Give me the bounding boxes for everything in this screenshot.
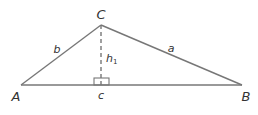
side-label-b: b	[54, 43, 61, 56]
altitude-label-main: h	[106, 52, 113, 65]
triangle-diagram: C A B b a c h1	[0, 0, 258, 115]
altitude-label: h1	[106, 52, 117, 66]
vertex-label-c: C	[96, 7, 106, 22]
side-b-line	[21, 25, 101, 85]
side-a-line	[101, 25, 242, 85]
side-label-a: a	[168, 42, 175, 55]
side-label-c: c	[98, 89, 104, 102]
altitude-label-subscript: 1	[113, 58, 117, 66]
vertex-label-a: A	[11, 89, 21, 104]
vertex-label-b: B	[242, 89, 251, 104]
